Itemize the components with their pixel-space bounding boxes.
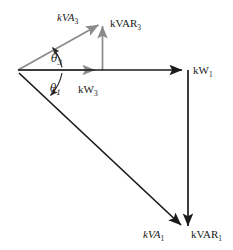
label-kw1: kW1 [193, 64, 213, 79]
label-kva1: kVA1 [143, 228, 165, 243]
vector-diagram-canvas: kVA3 kVAR3 kW3 kW1 kVA1 kVAR1 θ3 θ1 [0, 0, 233, 250]
label-kw3: kW3 [78, 83, 98, 98]
outer-power-triangle [18, 70, 188, 226]
label-kvar1: kVAR1 [191, 228, 222, 243]
kva1-vector [19, 73, 181, 225]
label-kva3: kVA3 [57, 11, 79, 26]
label-theta3: θ3 [51, 52, 62, 67]
power-triangle-figure: kVA3 kVAR3 kW3 kW1 kVA1 kVAR1 θ3 θ1 [0, 0, 233, 250]
label-kvar3: kVAR3 [110, 17, 141, 32]
